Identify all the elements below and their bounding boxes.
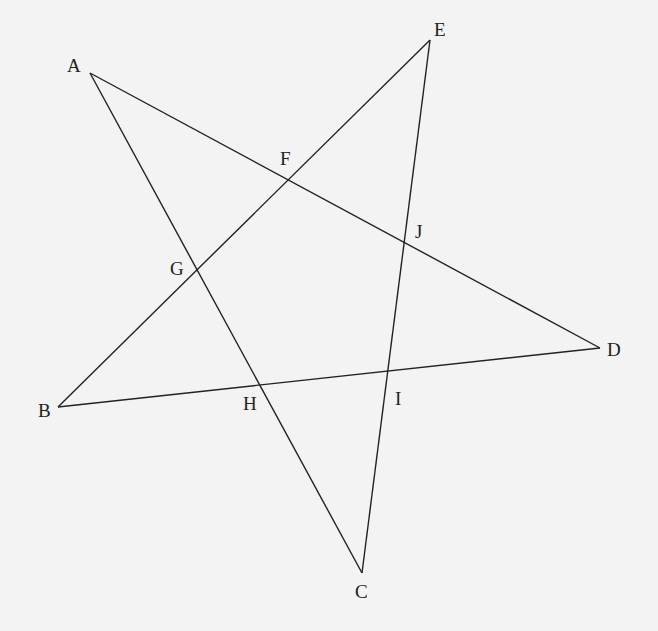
point-label-b: B	[38, 400, 51, 421]
segment-bd	[58, 348, 600, 407]
segment-be	[58, 40, 430, 407]
point-labels: AEDBCFGJHI	[38, 19, 621, 602]
point-label-i: I	[395, 388, 401, 409]
point-label-c: C	[355, 581, 368, 602]
point-label-a: A	[67, 55, 81, 76]
point-label-j: J	[415, 221, 422, 242]
point-label-f: F	[280, 148, 291, 169]
point-label-g: G	[170, 258, 184, 279]
point-label-h: H	[243, 393, 257, 414]
segment-ec	[362, 40, 430, 573]
point-label-e: E	[434, 19, 446, 40]
pentagram-diagram: AEDBCFGJHI	[0, 0, 658, 631]
pentagram-figure: AEDBCFGJHI	[0, 0, 658, 631]
pentagram-lines	[58, 40, 600, 573]
segment-ad	[90, 73, 600, 348]
point-label-d: D	[607, 339, 621, 360]
